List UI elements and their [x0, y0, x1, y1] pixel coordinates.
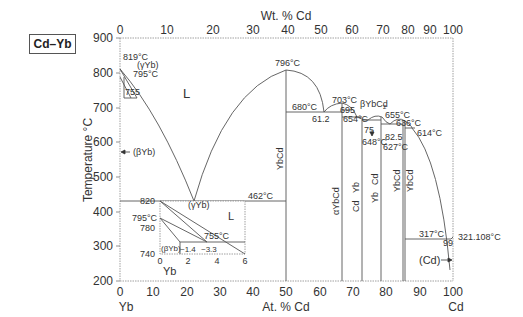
svg-text:20: 20: [206, 23, 220, 37]
svg-text:82.5: 82.5: [385, 132, 403, 142]
svg-text:300: 300: [93, 239, 113, 253]
svg-text:636°C: 636°C: [396, 118, 422, 128]
svg-text:(Cd): (Cd): [419, 254, 440, 266]
svg-text:6: 6: [242, 256, 247, 266]
svg-text:0: 0: [157, 256, 162, 266]
svg-text:YbCd: YbCd: [275, 147, 285, 170]
svg-text:462°C: 462°C: [248, 191, 274, 201]
svg-text:795°C: 795°C: [132, 213, 158, 223]
svg-text:780: 780: [140, 223, 155, 233]
svg-text:10: 10: [160, 23, 174, 37]
svg-text:(γYb): (γYb): [188, 200, 210, 210]
svg-text:~1.4: ~1.4: [180, 245, 196, 254]
svg-text:100: 100: [443, 23, 463, 37]
svg-text:200: 200: [93, 274, 113, 288]
svg-text:60: 60: [313, 285, 327, 299]
svg-text:680°C: 680°C: [292, 102, 318, 112]
svg-text:YbCd: YbCd: [405, 169, 415, 192]
svg-text:755: 755: [125, 87, 140, 97]
svg-text:900: 900: [93, 31, 113, 45]
top-axis-label: Wt. % Cd: [261, 9, 312, 23]
phase-diagram: 900 800 700 600 500 400 300 200 Temperat…: [0, 0, 523, 317]
svg-text:99: 99: [443, 238, 453, 248]
svg-text:10: 10: [146, 285, 160, 299]
svg-text:L: L: [228, 210, 234, 222]
svg-text:740: 740: [140, 249, 155, 259]
svg-text:50: 50: [314, 23, 328, 37]
svg-text:Cd: Cd: [351, 200, 361, 212]
svg-text:500: 500: [93, 170, 113, 184]
svg-text:αYbCd: αYbCd: [331, 187, 341, 215]
svg-text:30: 30: [246, 23, 260, 37]
y-axis: [116, 38, 120, 281]
svg-text:90: 90: [413, 285, 427, 299]
svg-text:75: 75: [364, 125, 374, 135]
svg-text:Cd: Cd: [370, 173, 380, 185]
svg-text:80: 80: [401, 23, 415, 37]
svg-text:796°C: 796°C: [275, 58, 301, 68]
svg-text:90: 90: [423, 23, 437, 37]
svg-text:60: 60: [345, 23, 359, 37]
right-element-label: Cd: [448, 300, 463, 314]
svg-text:Yb: Yb: [370, 192, 380, 203]
svg-text:627°C: 627°C: [383, 142, 409, 152]
svg-text:70: 70: [376, 23, 390, 37]
svg-text:40: 40: [246, 285, 260, 299]
svg-text:800: 800: [93, 66, 113, 80]
bottom-tick-labels: 0 10 20 30 40 50 60 70 80 90 100: [117, 285, 464, 299]
svg-text:700: 700: [93, 101, 113, 115]
svg-text:703°C: 703°C: [332, 95, 358, 105]
svg-text:20: 20: [180, 285, 194, 299]
svg-text:755°C: 755°C: [204, 231, 230, 241]
svg-text:61.2: 61.2: [312, 114, 330, 124]
y-axis-label: Temperature °C: [81, 118, 95, 202]
svg-text:Yb: Yb: [351, 182, 361, 193]
svg-text:400: 400: [93, 205, 113, 219]
svg-text:YbCd: YbCd: [392, 169, 402, 192]
svg-text:50: 50: [279, 285, 293, 299]
svg-text:80: 80: [379, 285, 393, 299]
svg-text:70: 70: [346, 285, 360, 299]
svg-text:~3.3: ~3.3: [201, 245, 217, 254]
svg-text:4: 4: [214, 256, 219, 266]
svg-text:0: 0: [117, 23, 124, 37]
inset: 820 795°C 780 740 0 2 4 6 Yb (γYb) L 755…: [132, 196, 248, 277]
svg-text:(βYb): (βYb): [133, 147, 155, 157]
x-axis-label: At. % Cd: [262, 300, 309, 314]
svg-text:321.108°C: 321.108°C: [458, 232, 501, 242]
svg-text:(βYb): (βYb): [161, 244, 181, 253]
compound-labels: YbCd αYbCd Yb Cd Yb Cd YbCd YbCd: [275, 147, 415, 215]
svg-text:820: 820: [140, 196, 155, 206]
svg-text:654°C: 654°C: [343, 114, 369, 124]
svg-text:30: 30: [213, 285, 227, 299]
left-element-label: Yb: [119, 300, 134, 314]
y-tick-labels: 900 800 700 600 500 400 300 200: [93, 31, 113, 288]
svg-text:100: 100: [443, 285, 463, 299]
svg-text:795°C: 795°C: [133, 69, 159, 79]
top-tick-labels: 0 10 20 30 40 50 60 70 80 90 100: [117, 23, 464, 37]
svg-text:317°C: 317°C: [419, 229, 445, 239]
svg-text:600: 600: [93, 135, 113, 149]
svg-text:40: 40: [281, 23, 295, 37]
svg-text:0: 0: [117, 285, 124, 299]
svg-text:614°C: 614°C: [417, 128, 443, 138]
svg-text:2: 2: [185, 256, 190, 266]
svg-text:Yb: Yb: [163, 265, 176, 277]
svg-text:L: L: [183, 86, 190, 101]
